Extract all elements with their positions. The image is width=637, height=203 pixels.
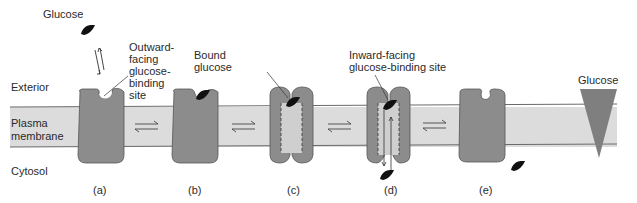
outward-site-label-line-2: facing — [129, 53, 158, 65]
outward-site-label-line-4: binding — [129, 77, 164, 89]
plasma-membrane-label-line-1: Plasma — [11, 117, 48, 129]
glucose-molecule-exterior — [81, 25, 95, 35]
plasma-membrane-label-line-2: membrane — [11, 130, 64, 142]
outward-site-label-line-3: glucose- — [129, 65, 171, 77]
bound-glucose-label-line-1: Bound — [194, 49, 226, 61]
glucose-gradient-label: Glucose — [578, 74, 618, 86]
stage-label-b: (b) — [188, 184, 201, 196]
stage-label-e: (e) — [479, 184, 492, 196]
bidirectional-arrow-vertical-icon — [95, 48, 104, 74]
glucose-molecule-released — [511, 161, 525, 171]
glucose-molecule-cytosol — [380, 170, 394, 180]
cytosol-label: Cytosol — [11, 165, 48, 177]
transporter-state-a — [78, 76, 128, 163]
inward-site-label-line-1: Inward-facing — [349, 49, 415, 61]
outward-site-label-line-5: site — [129, 89, 146, 101]
transporter-state-c — [267, 72, 313, 163]
transporter-state-d — [367, 75, 410, 180]
exterior-label: Exterior — [11, 81, 49, 93]
stage-label-d: (d) — [384, 184, 397, 196]
bound-glucose-label-line-2: glucose — [194, 61, 232, 73]
stage-label-a: (a) — [93, 184, 106, 196]
outward-site-label-line-1: Outward- — [129, 41, 174, 53]
inward-site-label-line-2: glucose-binding site — [349, 61, 446, 73]
diagram-canvas — [0, 0, 637, 203]
stage-label-c: (c) — [287, 184, 300, 196]
transporter-state-b — [172, 89, 218, 163]
glucose-label-exterior: Glucose — [43, 8, 83, 20]
